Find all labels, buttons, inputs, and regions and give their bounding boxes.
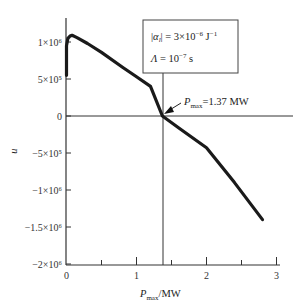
chart-canvas: 1×10⁶5×10⁵0−5×10⁵−1×10⁶−1.5×10⁶−2×10⁶ 01… <box>0 0 293 306</box>
y-tick-label: −1×10⁶ <box>32 185 62 196</box>
x-tick-label: 2 <box>204 270 209 281</box>
param-line-1: |αl| = 3×10−6 J−1 <box>151 30 218 44</box>
y-tick-label: 0 <box>57 111 62 122</box>
y-axis-label: u <box>8 148 19 153</box>
x-tick-label: 3 <box>274 270 279 281</box>
y-tick-label: −5×10⁵ <box>32 148 62 159</box>
y-tick-label: −2×10⁶ <box>32 259 62 270</box>
param-box <box>143 20 238 73</box>
param-line-2: Λ = 10−7 s <box>150 52 193 64</box>
x-axis-label: Pmax/MW <box>139 288 181 302</box>
x-tick-label: 0 <box>64 270 69 281</box>
x-ticks: 0123 <box>64 257 279 281</box>
pmax-arrow-head <box>164 106 174 114</box>
y-ticks: 1×10⁶5×10⁵0−5×10⁵−1×10⁶−1.5×10⁶−2×10⁶ <box>25 37 71 270</box>
y-tick-label: 5×10⁵ <box>38 74 62 85</box>
y-tick-label: −1.5×10⁶ <box>25 222 63 233</box>
x-tick-label: 1 <box>134 270 139 281</box>
y-tick-label: 1×10⁶ <box>38 37 63 48</box>
pmax-label: Pmax=1.37 MW <box>183 96 249 110</box>
